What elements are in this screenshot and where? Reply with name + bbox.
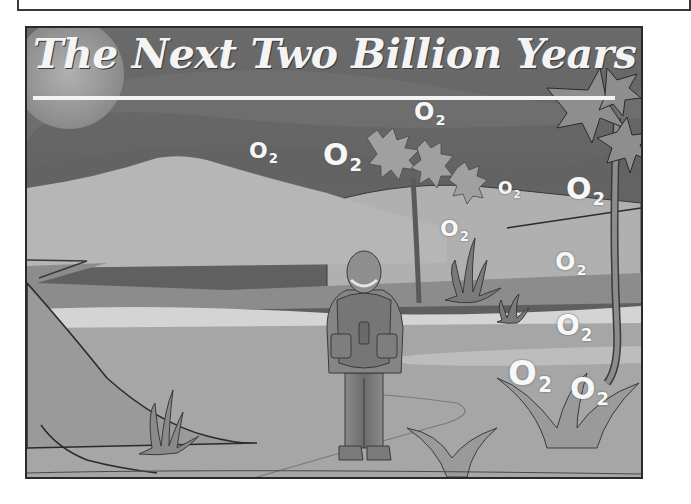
oxygen-subscript: 2: [538, 373, 552, 397]
oxygen-label: O2: [556, 312, 593, 340]
oxygen-label: O2: [508, 356, 552, 390]
oxygen-subscript: 2: [350, 154, 363, 175]
oxygen-subscript: 2: [460, 229, 469, 244]
oxygen-symbol: O: [440, 216, 459, 241]
poster-title: The Next Two Billion Years: [33, 30, 633, 78]
oxygen-symbol: O: [555, 248, 575, 276]
oxygen-symbol: O: [508, 353, 537, 393]
oxygen-label: O2: [323, 140, 362, 170]
oxygen-symbol: O: [323, 137, 349, 172]
oxygen-subscript: 2: [597, 388, 610, 409]
oxygen-subscript: 2: [435, 112, 445, 128]
oxygen-subscript: 2: [576, 262, 586, 278]
oxygen-symbol: O: [570, 371, 596, 406]
title-underline: [33, 96, 615, 100]
oxygen-symbol: O: [566, 171, 592, 206]
oxygen-label: O2: [249, 140, 278, 162]
oxygen-label: O2: [440, 218, 469, 240]
oxygen-symbol: O: [498, 178, 512, 198]
oxygen-subscript: 2: [593, 188, 606, 209]
oxygen-label: O2: [414, 100, 445, 124]
oxygen-symbol: O: [556, 309, 580, 342]
oxygen-label: O2: [570, 374, 609, 404]
oxygen-label: O2: [555, 250, 586, 274]
poster-illustration: The Next Two Billion Years O2O2O2O2O2O2O…: [25, 26, 643, 479]
header-box: [17, 0, 691, 11]
oxygen-subscript: 2: [269, 151, 278, 166]
oxygen-subscript: 2: [581, 325, 593, 345]
oxygen-label: O2: [566, 174, 605, 204]
oxygen-symbol: O: [249, 138, 268, 163]
oxygen-subscript: 2: [513, 189, 520, 200]
oxygen-label: O2: [498, 180, 521, 197]
oxygen-symbol: O: [414, 98, 434, 126]
